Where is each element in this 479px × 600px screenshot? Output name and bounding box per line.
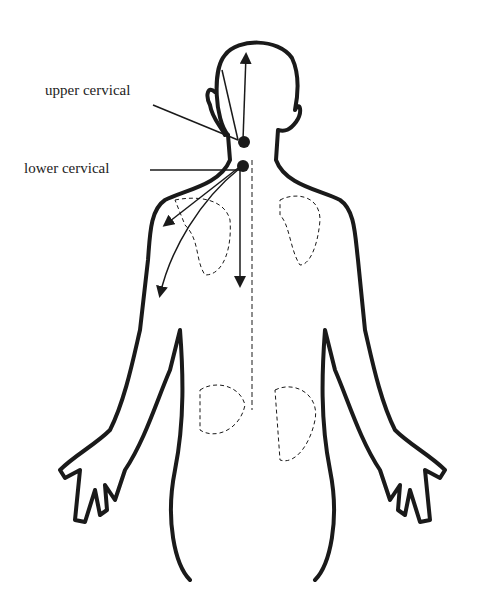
- pointer-lines: [150, 55, 246, 295]
- upper-cervical-dot: [238, 136, 250, 148]
- scapulae-and-pelvis: [175, 196, 320, 461]
- body-outline: [60, 43, 445, 580]
- body-diagram: [0, 0, 479, 600]
- lower-cervical-dot: [237, 160, 249, 172]
